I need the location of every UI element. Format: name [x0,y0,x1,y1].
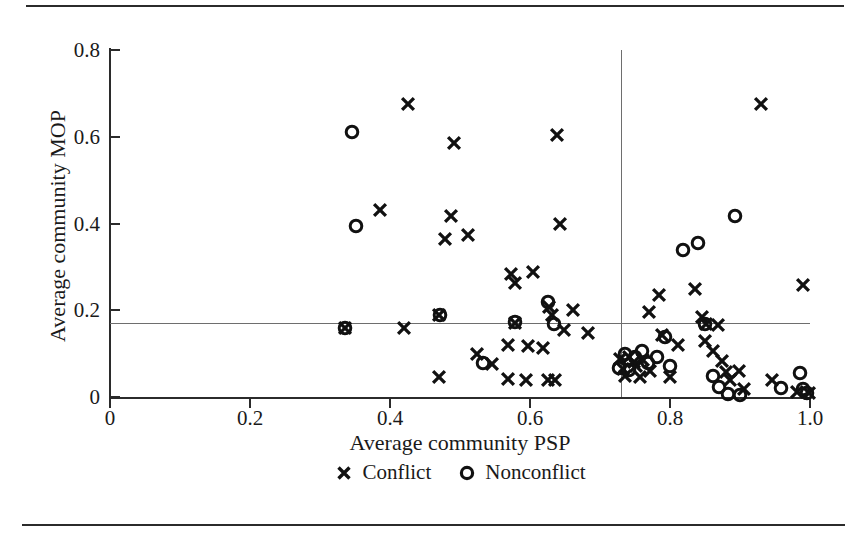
cross-marker-icon [334,463,354,483]
legend-item-conflict: Conflict [334,462,431,483]
circle-marker-icon [457,463,477,483]
chart-legend: Conflict Nonconflict [110,462,810,483]
legend-item-nonconflict: Nonconflict [457,462,585,483]
scatter-plot-figure: 00.20.40.60.8 00.20.40.60.81.0 Average c… [0,0,856,535]
data-markers-layer [0,0,856,535]
legend-label-nonconflict: Nonconflict [485,462,585,483]
legend-label-conflict: Conflict [362,462,431,483]
